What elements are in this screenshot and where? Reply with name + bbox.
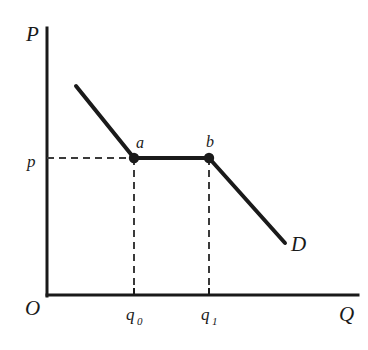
y-axis-label: P (25, 22, 39, 46)
kinked-demand-figure: P Q O p a b D q 0 q 1 (0, 0, 368, 350)
demand-curve-upper-segment (76, 86, 134, 158)
point-a-label: a (136, 134, 144, 151)
q1-base: q (201, 305, 210, 324)
origin-label: O (25, 296, 40, 320)
x-axis-label: Q (339, 302, 354, 326)
point-b-label: b (206, 133, 214, 150)
q1-tick-label: q 1 (201, 305, 218, 327)
q0-subscript: 0 (137, 315, 143, 327)
demand-curve-label: D (290, 232, 306, 256)
q1-subscript: 1 (212, 315, 218, 327)
q0-base: q (126, 305, 135, 324)
price-level-label: p (26, 152, 36, 171)
kinked-demand-chart: P Q O p a b D q 0 q 1 (0, 0, 368, 350)
point-b-marker (204, 153, 214, 163)
point-a-marker (129, 153, 139, 163)
demand-curve-lower-segment (209, 158, 285, 243)
q0-tick-label: q 0 (126, 305, 143, 327)
